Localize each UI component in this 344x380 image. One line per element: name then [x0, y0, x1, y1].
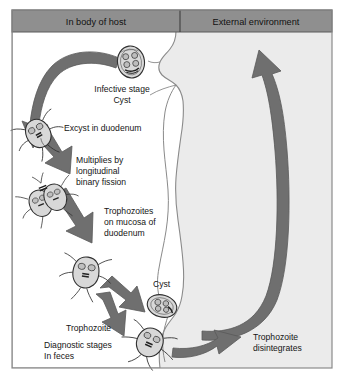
label-line: Cyst [153, 279, 171, 289]
header-bar: In body of host External environment [12, 10, 332, 32]
label-line: Cyst [113, 95, 131, 105]
label-line: Multiplies by [76, 155, 124, 165]
label-excyst-in-duodenum: Excyst in duodenum [64, 123, 141, 133]
label-line: Infective stage [94, 84, 150, 94]
label-multiplies-binary-fission: Multiplies by longitudinal binary fissio… [76, 155, 126, 187]
label-line: longitudinal [76, 166, 120, 176]
label-line: binary fission [76, 177, 126, 187]
label-trophozoite-disintegrates: Trophozoite disintegrates [253, 332, 302, 353]
label-line: duodenum [104, 228, 145, 238]
giardia-life-cycle-figure: In body of host External environment Inf… [0, 0, 344, 380]
label-line: disintegrates [253, 343, 302, 353]
label-line: Trophozoite [66, 323, 111, 333]
label-line: Excyst in duodenum [64, 123, 141, 133]
header-in-body-of-host: In body of host [66, 17, 127, 27]
label-line: on mucosa of [104, 217, 156, 227]
label-trophozoite: Trophozoite [66, 323, 111, 333]
label-line: Diagnostic stages [44, 340, 112, 350]
header-external-environment: External environment [213, 17, 300, 27]
label-cyst: Cyst [153, 279, 171, 289]
label-line: Trophozoite [253, 332, 298, 342]
label-line: In feces [44, 351, 74, 361]
label-line: Trophozoites [104, 206, 153, 216]
